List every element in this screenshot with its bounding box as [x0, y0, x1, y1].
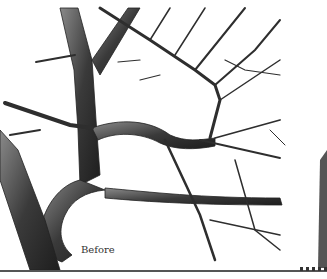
tree-branch-illustration	[0, 0, 327, 279]
adjacent-image-fragment	[318, 150, 327, 268]
figure-caption: Before	[81, 244, 115, 255]
divider-rule	[0, 270, 327, 272]
page-marks	[300, 267, 327, 271]
trunk	[0, 8, 282, 270]
